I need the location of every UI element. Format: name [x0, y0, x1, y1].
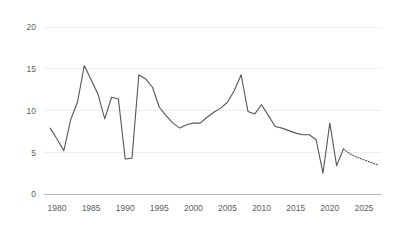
- y-tick-label: 15: [27, 64, 37, 74]
- x-tick-label: 2020: [320, 203, 339, 213]
- y-tick-label: 0: [31, 189, 36, 199]
- series-forecast: [343, 149, 377, 165]
- x-tick-label: 1990: [116, 203, 135, 213]
- x-tick-label: 1985: [82, 203, 101, 213]
- x-tick-label: 1995: [150, 203, 169, 213]
- x-tick-label: 2000: [184, 203, 203, 213]
- x-tick-label: 2010: [252, 203, 271, 213]
- x-tick-label: 2025: [354, 203, 373, 213]
- x-axis-tick-labels: 1980198519901995200020052010201520202025: [48, 203, 374, 213]
- x-tick-label: 2015: [286, 203, 305, 213]
- series-actual: [50, 66, 343, 174]
- y-axis-tick-labels: 05101520: [27, 22, 37, 199]
- data-series: [50, 66, 377, 174]
- line-chart: 05101520 1980198519901995200020052010201…: [0, 0, 396, 241]
- x-tick-label: 1980: [48, 203, 67, 213]
- y-tick-label: 5: [31, 148, 36, 158]
- chart-container: 05101520 1980198519901995200020052010201…: [0, 0, 396, 241]
- x-tick-label: 2005: [218, 203, 237, 213]
- gridlines: [44, 27, 381, 152]
- y-tick-label: 20: [27, 22, 37, 32]
- y-tick-label: 10: [27, 106, 37, 116]
